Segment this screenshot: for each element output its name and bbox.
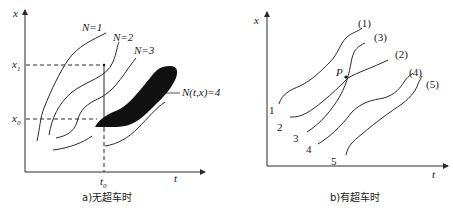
n4-region-label: N(t,x)=4 bbox=[181, 86, 221, 99]
panel-b-caption: b)有超车时 bbox=[330, 191, 380, 203]
start-label-2: 2 bbox=[277, 121, 283, 133]
curve-n1 bbox=[37, 33, 106, 141]
panel-a-y-axis-label: x bbox=[12, 7, 18, 19]
panel-b-y-axis-label: x bbox=[253, 14, 259, 26]
tick-t0-label: t0 bbox=[100, 175, 107, 190]
panel-b-x-axis-label: t bbox=[432, 168, 436, 180]
trajectory-3 bbox=[307, 43, 365, 132]
curve-n3-label: N=3 bbox=[133, 44, 155, 56]
panel-a-no-overtaking: x t x1 x0 t0 N=1 N=2 N=3 N(t,x)=4 a)无超车时 bbox=[11, 7, 221, 203]
end-label-4: (4) bbox=[409, 66, 422, 79]
curve-n1-label: N=1 bbox=[81, 21, 102, 33]
panel-a-x-axis-label: t bbox=[174, 172, 178, 184]
start-label-5: 5 bbox=[331, 155, 337, 167]
tick-x0-label: x0 bbox=[11, 112, 21, 127]
figure: x t x1 x0 t0 N=1 N=2 N=3 N(t,x)=4 a)无超车时 bbox=[0, 0, 453, 215]
trajectory-5 bbox=[346, 76, 422, 155]
start-label-4: 4 bbox=[306, 143, 312, 155]
tick-x1-label: x1 bbox=[11, 58, 20, 73]
n4-region-blob bbox=[95, 66, 177, 127]
end-label-5: (5) bbox=[426, 78, 439, 91]
panel-b-with-overtaking: x t P 1 2 3 4 5 (1) (3) (2) (4) (5) b)有超… bbox=[253, 12, 448, 203]
x1-t0-point bbox=[103, 64, 106, 67]
panel-a-caption: a)无超车时 bbox=[82, 191, 132, 203]
trajectory-1 bbox=[279, 28, 362, 104]
start-label-3: 3 bbox=[293, 132, 299, 144]
overtaking-point-p bbox=[344, 75, 347, 78]
end-label-2: (2) bbox=[395, 48, 408, 61]
end-label-1: (1) bbox=[358, 17, 371, 30]
curve-n2-label: N=2 bbox=[112, 31, 134, 43]
start-label-1: 1 bbox=[269, 104, 275, 116]
curve-n3-tail bbox=[53, 136, 92, 150]
end-label-3: (3) bbox=[374, 31, 387, 44]
point-p-label: P bbox=[335, 66, 343, 78]
